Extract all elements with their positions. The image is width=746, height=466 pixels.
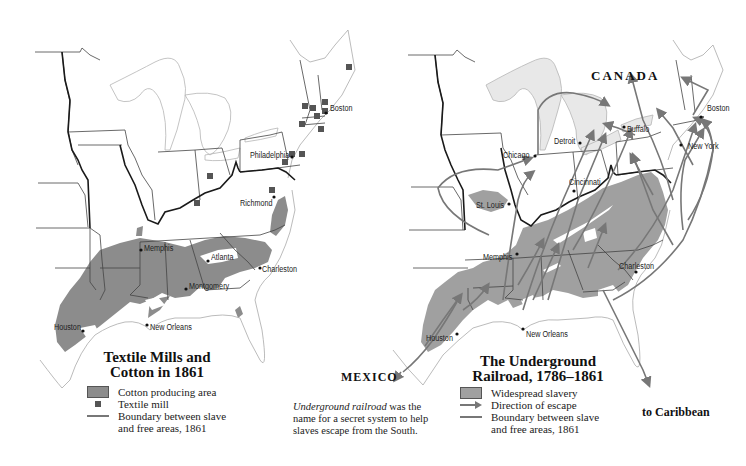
city-label-montgomery: Montgomery bbox=[189, 281, 229, 291]
legend-item-boundary: Boundary between slave and free areas, 1… bbox=[87, 410, 226, 434]
city-label-chicago: Chicago bbox=[503, 150, 530, 160]
label-canada: CANADA bbox=[591, 68, 659, 84]
boundary-line-swatch-icon bbox=[87, 410, 109, 422]
right-title-line2: Railroad, 1786–1861 bbox=[463, 369, 613, 384]
city-label-detroit: Detroit bbox=[554, 136, 575, 146]
left-map-title: Textile Mills and Cotton in 1861 bbox=[92, 350, 222, 380]
city-label-memphis: Memphis bbox=[483, 252, 512, 262]
legend-item-slavery: Widespread slavery bbox=[460, 387, 599, 399]
city-label-boston: Boston bbox=[330, 103, 352, 113]
city-label-memphis: Memphis bbox=[144, 243, 173, 253]
label-to-caribbean: to Caribbean bbox=[642, 405, 710, 420]
legend-item-escape-direction: Direction of escape bbox=[460, 399, 599, 411]
left-title-line2: Cotton in 1861 bbox=[92, 365, 222, 380]
city-label-charleston: Charleston bbox=[262, 264, 297, 274]
underground-railroad-caption: Underground railroad was the name for a … bbox=[293, 401, 458, 437]
cotton-area-swatch-icon bbox=[87, 386, 109, 398]
city-label-houston: Houston bbox=[426, 333, 453, 343]
left-map-legend: Cotton producing area Textile mill Bound… bbox=[87, 386, 226, 434]
underground-railroad-map: CANADA Boston Buffalo Detroit Chicago Ne… bbox=[373, 0, 746, 466]
city-label-boston: Boston bbox=[707, 103, 729, 113]
city-label-charleston: Charleston bbox=[619, 261, 654, 271]
legend-item-cotton: Cotton producing area bbox=[87, 386, 226, 398]
right-title-line1: The Underground bbox=[463, 354, 613, 369]
city-label-cincinnati: Cincinnati bbox=[569, 177, 601, 187]
arrow-right-icon bbox=[460, 399, 482, 411]
city-label-atlanta: Atlanta bbox=[211, 252, 233, 262]
city-label-new-orleans: New Orleans bbox=[150, 322, 192, 332]
right-map-legend: Widespread slavery Direction of escape B… bbox=[460, 387, 599, 435]
city-label-philadelphia: Philadelphia bbox=[250, 150, 289, 160]
textile-mills bbox=[194, 64, 352, 206]
boundary-line-swatch-icon bbox=[460, 411, 482, 423]
right-map-title: The Underground Railroad, 1786–1861 bbox=[463, 354, 613, 384]
city-label-houston: Houston bbox=[54, 322, 81, 332]
label-mexico: MEXICO bbox=[341, 370, 398, 385]
textile-mills-cotton-map: Boston Philadelphia Richmond Memphis Atl… bbox=[0, 0, 373, 466]
city-label-buffalo: Buffalo bbox=[627, 124, 649, 134]
city-label-st-louis: St. Louis bbox=[476, 200, 504, 210]
city-label-new-york: New York bbox=[688, 141, 719, 151]
city-label-richmond: Richmond bbox=[240, 198, 273, 208]
caption-term: Underground railroad bbox=[293, 401, 387, 412]
city-label-new-orleans: New Orleans bbox=[526, 329, 568, 339]
slavery-area-swatch-icon bbox=[460, 387, 482, 399]
legend-item-boundary: Boundary between slave and free areas, 1… bbox=[460, 411, 599, 435]
legend-item-textile-mill: Textile mill bbox=[87, 398, 226, 410]
textile-mill-swatch-icon bbox=[87, 398, 109, 410]
left-title-line1: Textile Mills and bbox=[92, 350, 222, 365]
